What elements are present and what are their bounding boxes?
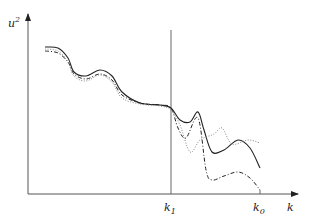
tick-label-k1: k1 — [164, 201, 176, 216]
series-dotted-curve — [45, 49, 260, 152]
y-axis-label: u2 — [8, 15, 20, 30]
x-axis-label: k — [287, 201, 294, 214]
chart: u2 k1 k0 k — [0, 0, 314, 218]
series-dashed-curve — [45, 51, 260, 190]
series-solid-curve — [45, 47, 260, 168]
tick-label-k0: k0 — [253, 201, 265, 216]
